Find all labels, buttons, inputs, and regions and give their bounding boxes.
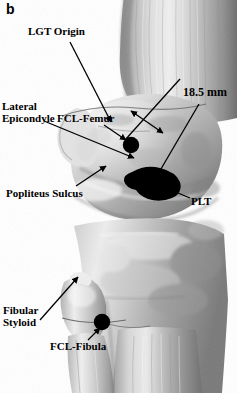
label-measurement: 18.5 mm xyxy=(183,86,227,99)
leader-popliteus-sulcus xyxy=(76,166,106,186)
label-lateral-epicondyle: Lateral Epicondyle xyxy=(2,101,55,124)
label-popliteus-sulcus: Popliteus Sulcus xyxy=(6,188,83,200)
fcl-femur-marker xyxy=(123,137,139,153)
figure-panel: b LGT Origin Lateral Epicondyle FCL-Femu… xyxy=(0,0,237,393)
label-lgt-origin: LGT Origin xyxy=(28,26,85,38)
panel-letter: b xyxy=(6,2,15,17)
leader-fcl-femur xyxy=(104,125,126,140)
label-fibular-styloid: Fibular Styloid xyxy=(3,305,38,328)
measurement-arrow xyxy=(131,111,163,133)
label-fcl-femur: FCL-Femur xyxy=(57,113,114,125)
plt-marker xyxy=(124,167,181,201)
leader-fibular-styloid xyxy=(40,277,78,320)
fcl-fibula-marker xyxy=(94,314,110,330)
measurement-leader-upper xyxy=(125,79,180,140)
label-fcl-fibula: FCL-Fibula xyxy=(50,341,106,353)
leader-fcl-fibula xyxy=(88,328,100,340)
leader-lateral-epicondyle xyxy=(44,121,134,158)
label-plt: PLT xyxy=(191,196,211,208)
leader-lgt-origin xyxy=(70,42,111,122)
